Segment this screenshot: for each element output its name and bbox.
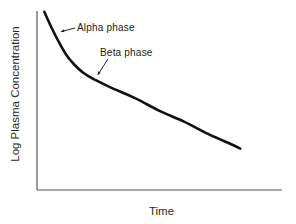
alpha-phase-label: Alpha phase [77,22,135,33]
y-axis-label: Log Plasma Concentration [9,26,21,162]
beta-phase-label: Beta phase [100,47,153,58]
series-line-0 [44,12,240,149]
x-axis-label: Time [149,205,174,217]
series-layer [44,12,240,149]
chart: Alpha phaseBeta phase Time Log Plasma Co… [0,0,296,224]
